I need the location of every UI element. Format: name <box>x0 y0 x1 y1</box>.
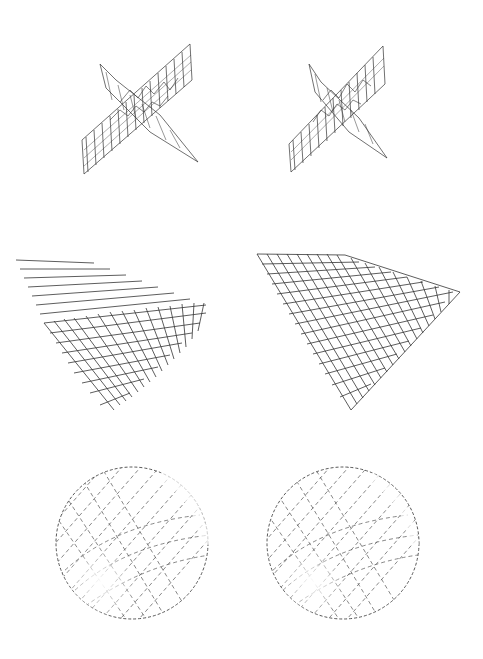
crossed-planes-right-drawing <box>283 40 413 180</box>
perspective-grid-right <box>255 252 465 417</box>
crossed-planes-left-drawing <box>80 40 210 180</box>
sphere-right-drawing <box>258 455 428 625</box>
perspective-grid-right-drawing <box>255 252 465 417</box>
crossed-planes-left <box>80 40 210 180</box>
crossed-planes-right <box>283 40 413 180</box>
perspective-grid-left-drawing <box>14 255 219 415</box>
perspective-grid-left <box>14 255 219 415</box>
sphere-left <box>50 455 220 625</box>
sphere-left-drawing <box>50 455 220 625</box>
sphere-right <box>258 455 428 625</box>
